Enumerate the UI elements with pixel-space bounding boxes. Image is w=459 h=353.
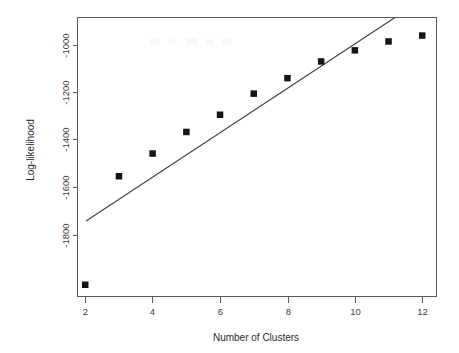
data-point-marker: [149, 150, 156, 157]
data-point-marker: [251, 90, 258, 97]
y-tick-label: -1200: [60, 80, 71, 104]
x-tick-label: 10: [350, 306, 361, 317]
y-tick-label: -1600: [60, 175, 71, 199]
data-point-marker: [318, 58, 325, 64]
data-point-marker: [116, 173, 123, 180]
scatter-plot-svg: -1000 -1200 -1400 -1600 -1800 Log-likeli…: [0, 0, 459, 353]
y-tick-label: -1800: [60, 223, 71, 247]
chart-figure: -1000 -1200 -1400 -1600 -1800 Log-likeli…: [0, 0, 459, 353]
data-point-marker: [352, 47, 359, 54]
data-point-marker: [183, 129, 190, 136]
x-tick-label: 6: [218, 306, 223, 317]
x-tick-label: 8: [286, 306, 291, 317]
x-axis-title: Number of Clusters: [213, 332, 299, 343]
data-point-marker: [217, 112, 224, 119]
x-tick-label: 12: [417, 306, 428, 317]
y-tick-label: -1000: [60, 33, 71, 57]
data-point-marker: [419, 32, 426, 39]
x-tick-label: 2: [83, 306, 88, 317]
data-point-marker: [385, 38, 392, 45]
data-point-marker: [82, 282, 89, 289]
data-point-marker: [284, 75, 291, 82]
y-tick-label: -1400: [60, 127, 71, 151]
y-axis-title: Log-likelihood: [25, 119, 36, 181]
x-tick-label: 4: [150, 306, 155, 317]
